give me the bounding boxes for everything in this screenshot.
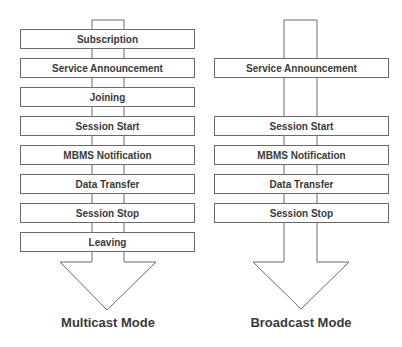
broadcast-mode-label: Broadcast Mode — [221, 315, 381, 330]
step-session-stop: Session Stop — [214, 203, 389, 223]
step-mbms-notification: MBMS Notification — [214, 145, 389, 165]
multicast-mode-label: Multicast Mode — [28, 315, 188, 330]
step-data-transfer: Data Transfer — [20, 174, 195, 194]
step-service-announcement: Service Announcement — [214, 58, 389, 78]
step-service-announcement: Service Announcement — [20, 58, 195, 78]
step-session-start: Session Start — [20, 116, 195, 136]
step-joining: Joining — [20, 87, 195, 107]
step-data-transfer: Data Transfer — [214, 174, 389, 194]
step-leaving: Leaving — [20, 232, 195, 252]
step-mbms-notification: MBMS Notification — [20, 145, 195, 165]
step-subscription: Subscription — [20, 29, 195, 49]
step-session-start: Session Start — [214, 116, 389, 136]
step-session-stop: Session Stop — [20, 203, 195, 223]
